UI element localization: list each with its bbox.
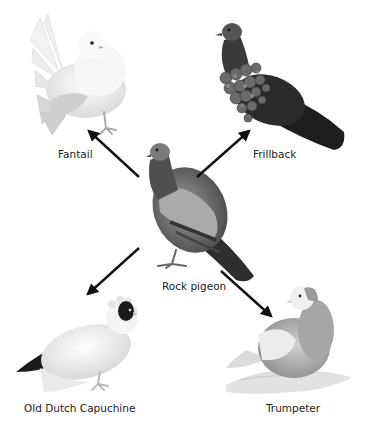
label-frillback: Frillback xyxy=(253,148,296,160)
arrow-to-fantail xyxy=(89,131,139,177)
label-fantail: Fantail xyxy=(58,148,93,160)
label-rock-pigeon: Rock pigeon xyxy=(162,280,226,292)
frillback-illustration xyxy=(215,23,344,150)
diagram-canvas xyxy=(0,0,368,431)
pigeon-breeds-diagram: Fantail Frillback Rock pigeon Old Dutch … xyxy=(0,0,368,431)
arrow-to-frillback xyxy=(197,131,249,177)
label-old-dutch-capuchine: Old Dutch Capuchine xyxy=(24,402,135,414)
old-dutch-capuchine-illustration xyxy=(16,296,138,392)
trumpeter-illustration xyxy=(226,286,352,394)
rock-pigeon-illustration xyxy=(139,143,254,281)
arrow-to-old-dutch-capuchine xyxy=(88,248,139,294)
label-trumpeter: Trumpeter xyxy=(266,402,320,414)
fantail-illustration xyxy=(30,14,126,135)
